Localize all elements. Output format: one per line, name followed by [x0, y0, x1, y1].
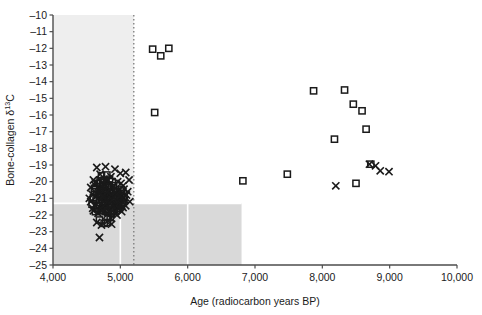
x-tick-label: 4,000 — [40, 271, 66, 283]
x-axis-title: Age (radiocarbon years BP) — [190, 295, 320, 307]
y-tick-label: –21 — [29, 192, 47, 204]
y-tick-label: –15 — [29, 92, 47, 104]
x-tick-label: 10,000 — [441, 271, 473, 283]
y-tick-label: –23 — [29, 225, 47, 237]
x-tick-label: 8,000 — [309, 271, 335, 283]
y-tick-label: –14 — [29, 75, 47, 87]
y-tick-label: –16 — [29, 109, 47, 121]
y-tick-label: –18 — [29, 142, 47, 154]
chart-figure: 4,0005,0006,0007,0008,0009,00010,000 –10… — [0, 0, 482, 315]
x-tick-label: 5,000 — [107, 271, 133, 283]
scatter-plot: 4,0005,0006,0007,0008,0009,00010,000 –10… — [0, 0, 482, 315]
y-tick-label: –17 — [29, 125, 47, 137]
y-axis-title-tail: C — [4, 94, 16, 102]
y-tick-label: –24 — [29, 242, 47, 254]
y-tick-label: –22 — [29, 209, 47, 221]
y-axis-title-superscript: 13 — [3, 102, 12, 110]
x-tick-label: 9,000 — [377, 271, 403, 283]
shaded-region-lower-left-panel — [53, 203, 242, 265]
y-tick-label: –11 — [30, 25, 47, 37]
y-tick-label: –20 — [29, 175, 47, 187]
x-tick-label: 6,000 — [175, 271, 201, 283]
x-tick-label: 7,000 — [242, 271, 268, 283]
y-tick-label: –13 — [29, 59, 47, 71]
y-tick-label: –25 — [29, 259, 47, 271]
y-axis-title-main: Bone-collagen δ — [4, 110, 16, 186]
y-tick-label: –12 — [29, 42, 47, 54]
y-tick-label: –19 — [29, 159, 47, 171]
y-tick-label: –10 — [29, 9, 47, 21]
